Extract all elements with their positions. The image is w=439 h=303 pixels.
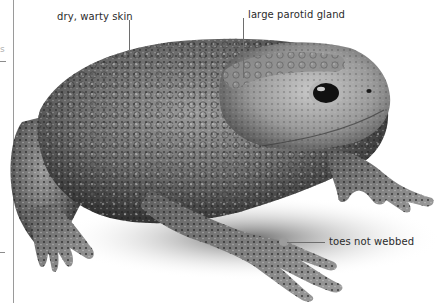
leader-line-toes (287, 242, 325, 243)
toad-illustration (0, 0, 439, 303)
leader-line-gland (243, 18, 244, 78)
toad-figure (0, 0, 439, 303)
label-toes-not-webbed: toes not webbed (329, 236, 414, 248)
book-page: s (0, 0, 439, 303)
nostril (366, 89, 371, 93)
label-dry-warty-skin: dry, warty skin (57, 11, 133, 23)
leader-line-skin (129, 20, 130, 50)
label-parotid-gland: large parotid gland (248, 9, 345, 21)
eye-icon (313, 83, 339, 103)
